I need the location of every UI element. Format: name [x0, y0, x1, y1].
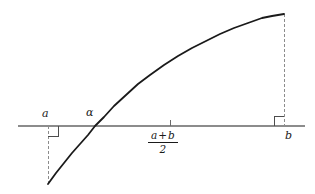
label-root-alpha: α	[86, 107, 93, 118]
label-point-b: b	[285, 130, 292, 141]
plus-operator: +	[157, 129, 168, 141]
right-angle-marker-at-b	[274, 116, 284, 126]
fraction-numerator: a+b	[148, 130, 178, 142]
function-curve	[48, 14, 284, 184]
fraction: a+b 2	[148, 130, 178, 154]
numerator-term-b: b	[168, 129, 175, 141]
figure-canvas	[0, 0, 315, 194]
fraction-denominator: 2	[148, 143, 178, 155]
label-point-a: a	[42, 108, 49, 119]
math-figure: a α b a+b 2	[0, 0, 315, 194]
right-angle-marker-at-a	[48, 126, 58, 136]
label-midpoint-fraction: a+b 2	[148, 130, 178, 154]
